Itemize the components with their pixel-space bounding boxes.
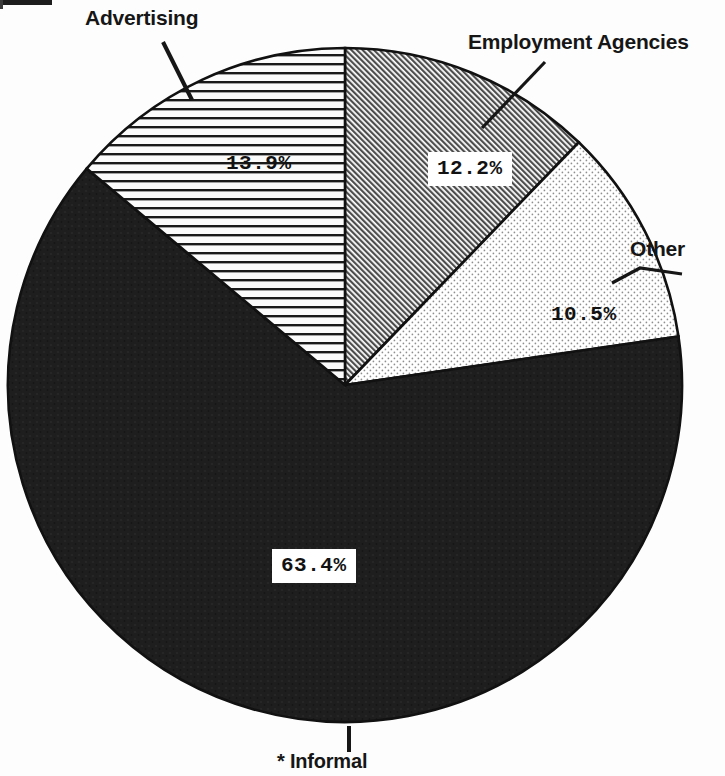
slice-value-informal: 63.4% xyxy=(272,549,356,583)
pie-chart-graphic xyxy=(0,0,725,776)
slice-value-employment-agencies: 12.2% xyxy=(428,152,512,186)
slice-label-informal: * Informal xyxy=(277,750,367,773)
pie-slices-main xyxy=(8,48,682,722)
slice-value-advertising: 13.9% xyxy=(226,152,292,175)
slice-label-employment-agencies: Employment Agencies xyxy=(468,30,689,54)
slice-label-other: Other xyxy=(630,237,685,261)
slice-label-advertising: Advertising xyxy=(85,6,198,30)
slice-value-other: 10.5% xyxy=(551,303,617,326)
pie-chart-page: Advertising Employment Agencies Other * … xyxy=(0,0,725,776)
